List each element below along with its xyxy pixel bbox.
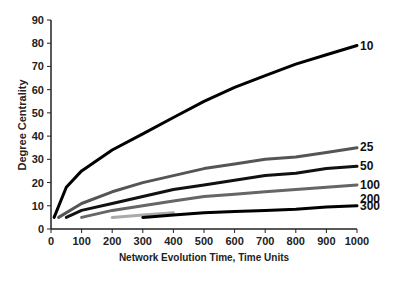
x-tick-label: 400 [164,235,182,247]
line-chart: 0100200300400500600700800900100001020304… [0,0,399,283]
series-lines [54,46,357,218]
series-label-50: 50 [360,159,374,173]
x-tick-label: 500 [195,235,213,247]
series-label-10: 10 [360,39,374,53]
y-tick-label: 0 [38,223,44,235]
y-tick-label: 70 [32,60,44,72]
y-tick-label: 10 [32,200,44,212]
series-labels: 102550100200300 [360,39,380,213]
y-tick-label: 30 [32,153,44,165]
y-tick-label: 60 [32,84,44,96]
y-tick-label: 20 [32,177,44,189]
y-tick-label: 40 [32,130,44,142]
x-axis-label: Network Evolution Time, Time Units [119,252,290,263]
series-label-100: 100 [360,178,380,192]
x-tick-label: 700 [256,235,274,247]
x-tick-label: 200 [103,235,121,247]
y-axis-label: Degree Centrality [16,79,28,171]
series-label-300: 300 [360,199,380,213]
y-tick-label: 80 [32,37,44,49]
x-tick-label: 0 [48,235,54,247]
x-tick-label: 800 [287,235,305,247]
x-tick-label: 900 [317,235,335,247]
y-tick-label: 50 [32,107,44,119]
x-tick-label: 600 [225,235,243,247]
x-tick-label: 100 [72,235,90,247]
series-line-10 [54,46,357,218]
series-label-25: 25 [360,140,374,154]
y-tick-label: 90 [32,14,44,26]
x-tick-label: 1000 [345,235,369,247]
series-line-300 [143,206,357,218]
x-tick-label: 300 [134,235,152,247]
